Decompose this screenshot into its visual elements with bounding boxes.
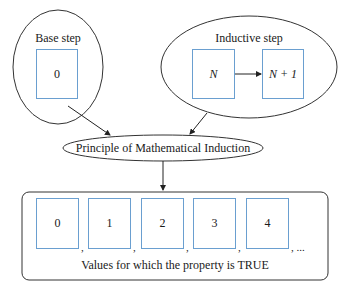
base-step-box: 0 xyxy=(36,49,78,99)
value-box-0: 0 xyxy=(36,198,79,249)
value-separator: , xyxy=(238,241,241,253)
inductive-n-plus-1-label: N + 1 xyxy=(269,67,297,82)
values-caption: Values for which the property is TRUE xyxy=(75,258,275,272)
value-separator: , xyxy=(186,241,189,253)
value-3: 3 xyxy=(212,216,218,231)
value-box-4: 4 xyxy=(246,198,289,249)
value-2: 2 xyxy=(160,216,166,231)
value-box-3: 3 xyxy=(193,198,236,249)
base-step-value: 0 xyxy=(54,67,60,82)
value-4: 4 xyxy=(265,216,271,231)
base-step-title: Base step xyxy=(28,31,88,45)
value-separator: , xyxy=(133,241,136,253)
inductive-n-plus-1-box: N + 1 xyxy=(262,49,304,99)
value-box-1: 1 xyxy=(88,198,131,249)
value-box-2: 2 xyxy=(141,198,184,249)
value-0: 0 xyxy=(55,216,61,231)
inductive-n-label: N xyxy=(209,67,217,82)
inductive-step-title: Inductive step xyxy=(209,31,289,45)
principle-label: Principle of Mathematical Induction xyxy=(73,141,253,155)
value-separator: , xyxy=(81,241,84,253)
value-1: 1 xyxy=(107,216,113,231)
arrow-inductive-to-principle xyxy=(190,113,207,134)
value-ellipsis: , ... xyxy=(291,241,305,253)
inductive-n-box: N xyxy=(192,49,235,99)
